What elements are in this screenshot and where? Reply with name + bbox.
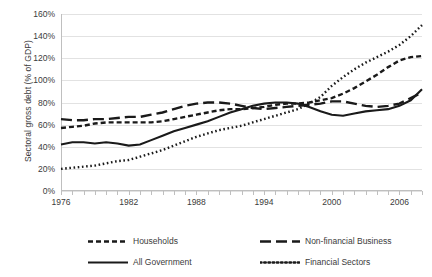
x-axis-tick — [332, 191, 333, 195]
plot-area: 0%20%40%60%80%100%120%140%160% 197619821… — [61, 14, 422, 191]
x-axis-tick — [61, 191, 62, 195]
x-axis-tick-label: 1988 — [174, 197, 218, 207]
x-axis-tick — [163, 191, 164, 195]
y-axis-tick-label: 120% — [19, 54, 55, 63]
x-axis-tick — [275, 191, 276, 195]
x-axis-tick — [287, 191, 288, 195]
series-line — [61, 93, 422, 121]
series-line — [61, 25, 422, 169]
x-axis-tick — [84, 191, 85, 195]
x-axis-tick — [117, 191, 118, 195]
y-axis-tick-label: 20% — [19, 165, 55, 174]
x-axis-tick-label: 2000 — [310, 197, 354, 207]
legend-label: Non-financial Business — [305, 236, 391, 246]
x-axis-tick — [151, 191, 152, 195]
y-axis-tick-label: 140% — [19, 32, 55, 41]
x-axis-tick — [219, 191, 220, 195]
x-axis-tick — [196, 191, 197, 195]
chart-container: Sectoral gross debt (% of GDP) 0%20%40%6… — [0, 0, 432, 277]
x-axis-tick-label: 1976 — [39, 197, 83, 207]
y-axis-tick-label: 60% — [19, 121, 55, 130]
x-axis-tick — [298, 191, 299, 195]
x-axis-tick-label: 1994 — [242, 197, 286, 207]
legend-item[interactable]: Households — [88, 236, 260, 246]
legend-item[interactable]: Non-financial Business — [260, 236, 432, 246]
y-axis-tick-label: 40% — [19, 143, 55, 152]
x-axis-tick — [320, 191, 321, 195]
x-axis-tick — [72, 191, 73, 195]
x-axis-tick — [343, 191, 344, 195]
x-axis-tick — [95, 191, 96, 195]
y-axis-tick-label: 100% — [19, 76, 55, 85]
x-axis-tick — [106, 191, 107, 195]
x-axis-tick — [174, 191, 175, 195]
x-axis-tick — [399, 191, 400, 195]
x-axis-tick — [377, 191, 378, 195]
x-axis-tick — [129, 191, 130, 195]
chart-legend: HouseholdsNon-financial BusinessAll Gove… — [88, 236, 418, 267]
x-axis-tick — [354, 191, 355, 195]
x-axis-tick — [242, 191, 243, 195]
legend-item[interactable]: Financial Sectors — [260, 257, 432, 267]
legend-label: Households — [133, 236, 178, 246]
y-axis-tick-label: 160% — [19, 10, 55, 19]
legend-label: Financial Sectors — [305, 257, 370, 267]
x-axis-tick — [208, 191, 209, 195]
legend-swatch-icon — [88, 237, 128, 246]
series-lines — [61, 14, 422, 191]
legend-swatch-icon — [88, 258, 128, 267]
x-axis-tick — [185, 191, 186, 195]
x-axis-tick — [230, 191, 231, 195]
x-axis-tick-label: 1982 — [107, 197, 151, 207]
x-axis-tick — [140, 191, 141, 195]
x-axis-tick — [366, 191, 367, 195]
legend-swatch-icon — [260, 258, 300, 267]
y-axis-tick-label: 0% — [19, 187, 55, 196]
legend-swatch-icon — [260, 237, 300, 246]
x-axis-tick — [411, 191, 412, 195]
legend-item[interactable]: All Government — [88, 257, 260, 267]
x-axis-tick — [309, 191, 310, 195]
x-axis-tick — [253, 191, 254, 195]
legend-label: All Government — [133, 257, 192, 267]
y-axis-tick-label: 80% — [19, 99, 55, 108]
x-axis-tick — [264, 191, 265, 195]
x-axis-tick-label: 2006 — [377, 197, 421, 207]
x-axis-tick — [422, 191, 423, 195]
x-axis-tick — [388, 191, 389, 195]
